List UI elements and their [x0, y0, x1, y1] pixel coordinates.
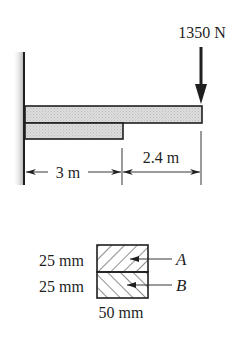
dim-label-left-span: 3 m	[56, 164, 81, 181]
load-label: 1350 N	[178, 24, 226, 41]
section-part-A	[97, 245, 148, 272]
arrowhead-icon	[195, 84, 207, 104]
part-label-B: B	[176, 276, 187, 295]
load-arrow	[195, 47, 207, 104]
section-top-height-label: 25 mm	[39, 252, 84, 269]
beam-bottom-B	[25, 123, 123, 139]
dim-label-right-span: 2.4 m	[143, 149, 180, 166]
beam-diagram: 1350 N 3 m 2.4 m 25 mm 25 mm 50 mm A B	[0, 0, 245, 339]
fixed-support	[12, 52, 24, 185]
cross-section	[97, 245, 172, 298]
beam-top-A	[25, 106, 202, 123]
wall-shading	[12, 52, 24, 185]
section-width-label: 50 mm	[99, 304, 144, 321]
part-label-A: A	[175, 250, 187, 269]
section-bottom-height-label: 25 mm	[39, 278, 84, 295]
